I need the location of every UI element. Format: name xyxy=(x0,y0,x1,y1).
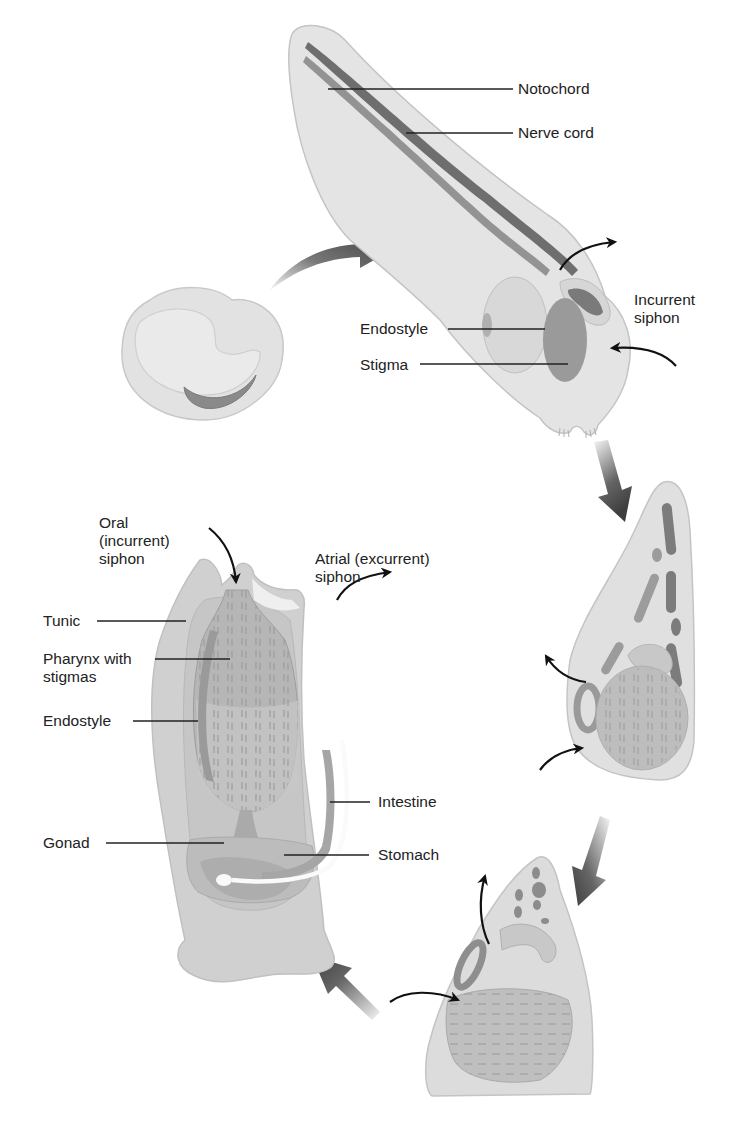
label-atrial-siphon: Atrial (excurrent) siphon xyxy=(315,550,430,586)
label-oral-siphon: Oral (incurrent) siphon xyxy=(99,514,170,568)
label-stomach: Stomach xyxy=(378,846,439,864)
adult-gonad xyxy=(216,874,232,886)
label-nerve-cord: Nerve cord xyxy=(518,124,594,142)
label-notochord: Notochord xyxy=(518,80,590,98)
settling-stage xyxy=(540,482,694,780)
label-incurrent-siphon: Incurrent siphon xyxy=(634,291,695,327)
label-intestine: Intestine xyxy=(378,793,437,811)
juvenile-stage xyxy=(390,857,593,1096)
settling-incurrent-flow-arrow xyxy=(540,748,582,770)
larva-stage xyxy=(289,25,676,438)
embryo-stage xyxy=(122,288,283,420)
label-pharynx: Pharynx with stigmas xyxy=(43,650,132,686)
label-stigma: Stigma xyxy=(360,356,408,374)
adult-stage xyxy=(152,528,390,982)
stage-arrow-larva-to-settling xyxy=(594,440,632,522)
label-gonad: Gonad xyxy=(43,834,90,852)
label-larva-endostyle: Endostyle xyxy=(360,320,428,338)
label-tunic: Tunic xyxy=(43,612,80,630)
label-adult-endostyle: Endostyle xyxy=(43,712,111,730)
stage-arrow-settling-to-juvenile xyxy=(572,816,610,906)
